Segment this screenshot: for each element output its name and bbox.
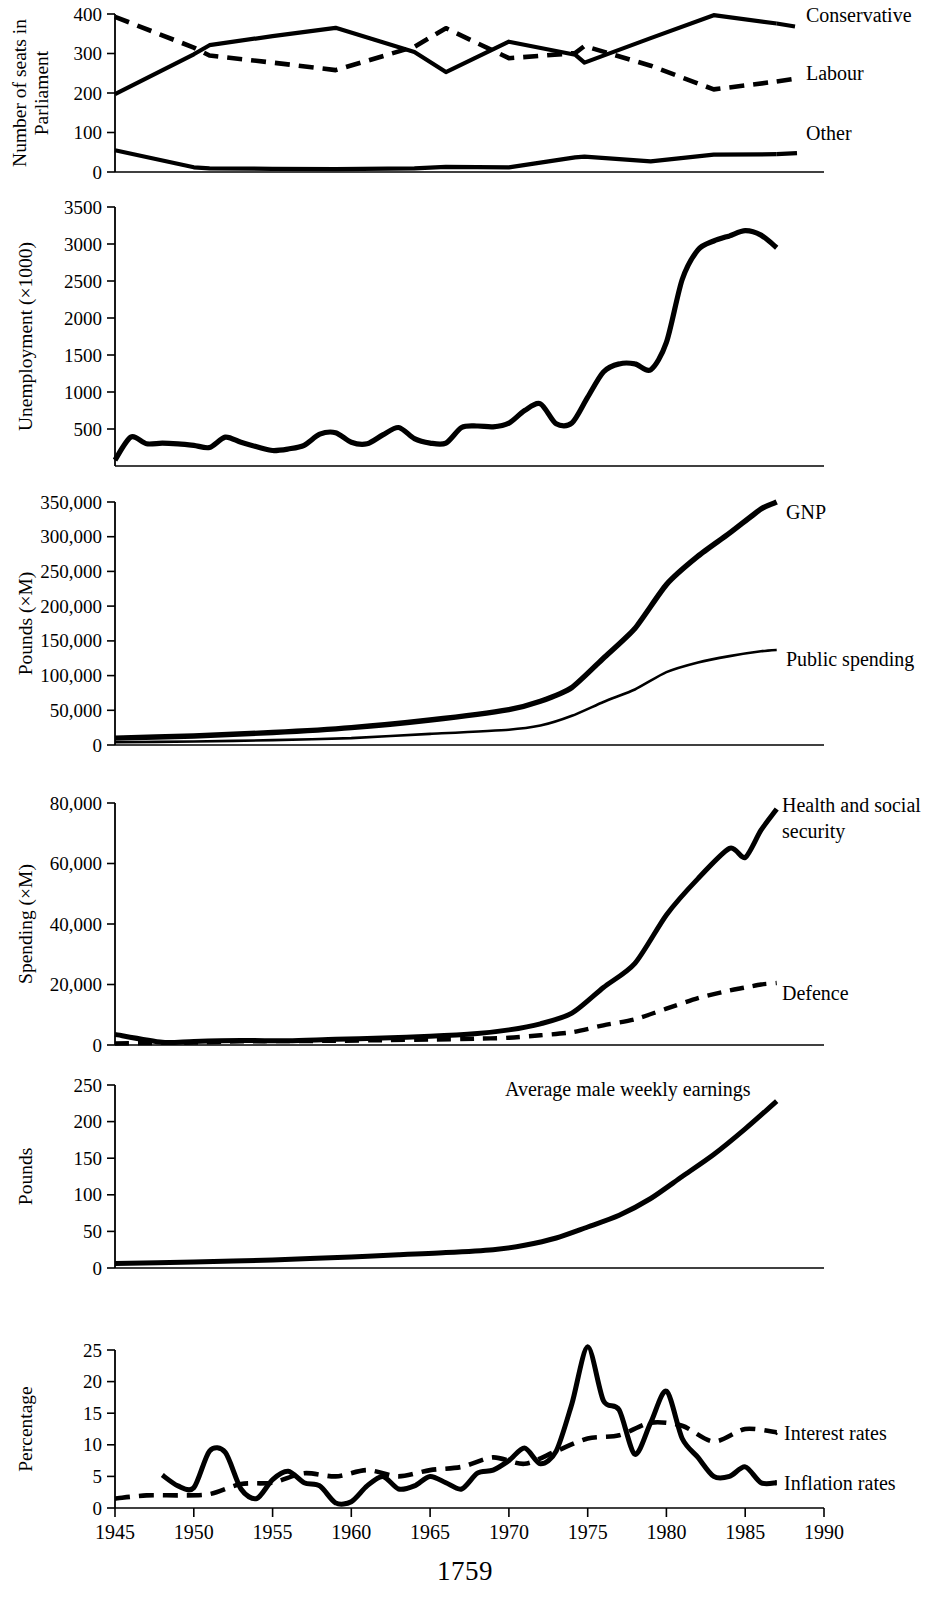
ytick-unemployment-3: 2000	[64, 308, 102, 329]
ylabel-parliament-2: Parliament	[31, 50, 52, 135]
ytick-pounds-1: 50,000	[50, 700, 102, 721]
ytick-unemployment-2: 1500	[64, 345, 102, 366]
ytick-earnings-5: 250	[74, 1075, 103, 1096]
xtick-1965: 1965	[410, 1521, 450, 1543]
ytick-earnings-0: 0	[93, 1258, 103, 1279]
ytick-unemployment-1: 1000	[64, 382, 102, 403]
ytick-spending-3: 60,000	[50, 853, 102, 874]
label-interest-rates: Interest rates	[784, 1422, 887, 1444]
ytick-percentage-4: 20	[83, 1371, 102, 1392]
label-public-spending: Public spending	[786, 648, 914, 671]
xtick-1980: 1980	[646, 1521, 686, 1543]
page-number: 1759	[0, 1556, 930, 1587]
ylabel-spending: Spending (×M)	[15, 864, 37, 984]
ytick-pounds-7: 350,000	[40, 492, 102, 513]
xtick-1945: 1945	[95, 1521, 135, 1543]
ytick-unemployment-4: 2500	[64, 271, 102, 292]
ylabel-parliament: Number of seats in	[9, 19, 30, 167]
xtick-1960: 1960	[331, 1521, 371, 1543]
ytick-spending-0: 0	[93, 1035, 103, 1056]
ylabel-pounds: Pounds (×M)	[15, 572, 37, 676]
label-conservative: Conservative	[806, 4, 912, 26]
ytick-parliament-1: 100	[74, 122, 103, 143]
ytick-unemployment-5: 3000	[64, 234, 102, 255]
label-other: Other	[806, 122, 852, 144]
ytick-pounds-3: 150,000	[40, 630, 102, 651]
ytick-earnings-3: 150	[74, 1148, 103, 1169]
ytick-parliament-3: 300	[74, 43, 103, 64]
label-health-social-security-2: security	[782, 820, 845, 843]
ytick-spending-1: 20,000	[50, 974, 102, 995]
ytick-earnings-4: 200	[74, 1111, 103, 1132]
economic-indicators-figure: 0100200300400Number of seats inParliamen…	[0, 0, 930, 1603]
label-defence: Defence	[782, 982, 849, 1004]
ytick-unemployment-0: 500	[74, 419, 103, 440]
ytick-parliament-2: 200	[74, 83, 103, 104]
ytick-pounds-5: 250,000	[40, 561, 102, 582]
xtick-1970: 1970	[489, 1521, 529, 1543]
ytick-parliament-4: 400	[74, 4, 103, 25]
label-gnp: GNP	[786, 501, 826, 523]
label-health-social-security: Health and social	[782, 794, 921, 816]
xtick-1975: 1975	[568, 1521, 608, 1543]
ytick-percentage-1: 5	[93, 1466, 103, 1487]
label-labour: Labour	[806, 62, 864, 84]
ylabel-percentage: Percentage	[15, 1386, 36, 1472]
ytick-parliament-0: 0	[93, 162, 103, 183]
ytick-percentage-5: 25	[83, 1340, 102, 1361]
ylabel-unemployment: Unemployment (×1000)	[15, 242, 37, 431]
ytick-pounds-0: 0	[93, 735, 103, 756]
ytick-percentage-3: 15	[83, 1403, 102, 1424]
ylabel-earnings: Pounds	[15, 1148, 36, 1205]
label-inflation-rates: Inflation rates	[784, 1472, 896, 1494]
xtick-1955: 1955	[253, 1521, 293, 1543]
ytick-pounds-4: 200,000	[40, 596, 102, 617]
ytick-earnings-1: 50	[83, 1221, 102, 1242]
ytick-percentage-0: 0	[93, 1498, 103, 1519]
ytick-spending-2: 40,000	[50, 914, 102, 935]
ytick-unemployment-6: 3500	[64, 197, 102, 218]
xtick-1985: 1985	[725, 1521, 765, 1543]
label-average-male-weekly-earnings: Average male weekly earnings	[505, 1078, 751, 1101]
ytick-earnings-2: 100	[74, 1184, 103, 1205]
xtick-1990: 1990	[804, 1521, 844, 1543]
ytick-percentage-2: 10	[83, 1434, 102, 1455]
ytick-spending-4: 80,000	[50, 793, 102, 814]
xtick-1950: 1950	[174, 1521, 214, 1543]
ytick-pounds-6: 300,000	[40, 526, 102, 547]
ytick-pounds-2: 100,000	[40, 665, 102, 686]
